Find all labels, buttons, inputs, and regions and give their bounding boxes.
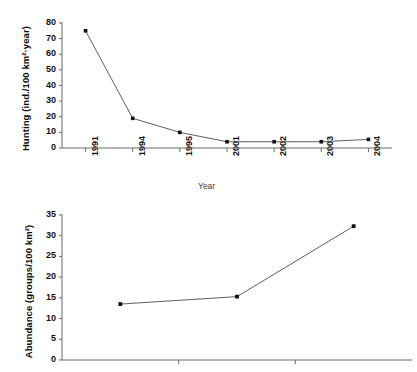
plot-area-hunting (0, 0, 417, 196)
plot-area-abundance (0, 196, 417, 372)
chart-panel-abundance: Abundance (groups/100 km²) 0510152025303… (0, 196, 417, 372)
figure-container: Hunting (ind./100 km²·year) Year 0102030… (0, 0, 417, 372)
chart-panel-hunting: Hunting (ind./100 km²·year) Year 0102030… (0, 0, 417, 196)
